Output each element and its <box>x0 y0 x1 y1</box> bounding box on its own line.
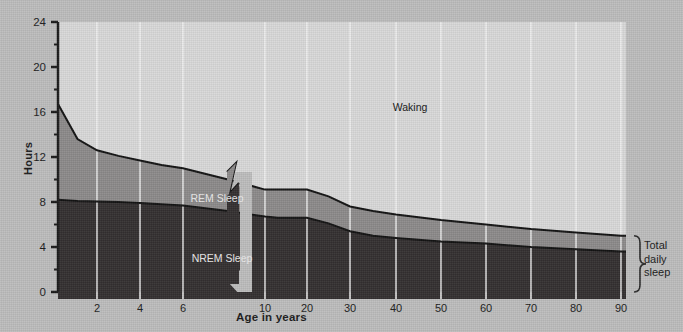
y-tick-label-20: 20 <box>33 61 46 73</box>
total-daily-sleep-label: Total daily sleep <box>644 239 670 280</box>
x-tick-label-80: 80 <box>570 302 582 314</box>
y-tick-label-4: 4 <box>40 241 47 253</box>
x-tick-label-30: 30 <box>344 302 356 314</box>
waking-label: Waking <box>393 101 428 113</box>
sleep-chart-figure: 04812162024246102030405060708090WakingRE… <box>0 0 683 332</box>
x-axis-bar <box>58 292 626 299</box>
y-tick-label-12: 12 <box>33 151 46 163</box>
rem-sleep-label: REM Sleep <box>190 192 243 204</box>
x-axis-title: Age in years <box>236 311 307 323</box>
y-tick-label-8: 8 <box>40 196 46 208</box>
bracket-line-1: Total <box>644 239 670 253</box>
y-tick-label-24: 24 <box>33 16 46 28</box>
chart-canvas: 04812162024246102030405060708090WakingRE… <box>0 0 683 332</box>
x-tick-label-6: 6 <box>180 302 186 314</box>
x-tick-label-4: 4 <box>137 302 143 314</box>
x-tick-label-2: 2 <box>94 302 100 314</box>
x-tick-label-60: 60 <box>480 302 492 314</box>
nrem-sleep-label: NREM Sleep <box>192 252 253 264</box>
break-upper-fill <box>228 22 252 172</box>
x-tick-label-50: 50 <box>435 302 447 314</box>
y-tick-label-0: 0 <box>40 286 46 298</box>
x-tick-label-40: 40 <box>390 302 402 314</box>
x-tick-label-70: 70 <box>525 302 537 314</box>
y-axis-title: Hours <box>22 142 34 175</box>
bracket-line-3: sleep <box>644 266 670 280</box>
x-tick-label-90: 90 <box>615 302 627 314</box>
bracket-line-2: daily <box>644 253 670 267</box>
y-tick-label-16: 16 <box>33 106 46 118</box>
